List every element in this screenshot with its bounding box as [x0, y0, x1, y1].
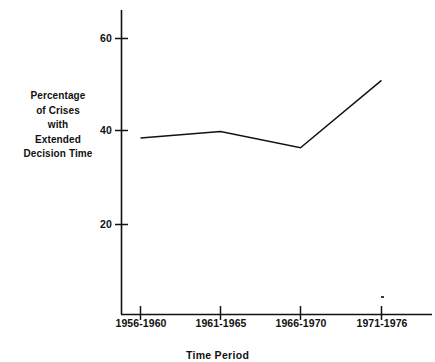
line-chart: Percentage of Crises with Extended Decis… [0, 0, 435, 362]
y-tick-label-20: 20 [86, 218, 112, 230]
x-tick-label-1961-1965: 1961-1965 [175, 317, 267, 329]
scan-artifact-speck [381, 296, 384, 298]
y-tick-label-40: 40 [86, 124, 112, 136]
y-tick-label-60: 60 [86, 32, 112, 44]
x-axis-title: Time Period [0, 349, 435, 361]
x-tick-label-1966-1970: 1966-1970 [255, 317, 347, 329]
axis-lines [121, 10, 432, 315]
x-tick-label-1956-1960: 1956-1960 [95, 317, 187, 329]
data-series-line [141, 80, 382, 147]
x-tick-label-1971-1976: 1971-1976 [336, 317, 428, 329]
plot-area [0, 0, 435, 362]
